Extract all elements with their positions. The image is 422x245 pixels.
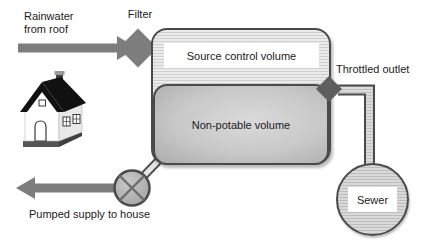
- filter-label: Filter: [118, 8, 162, 21]
- throttled-outlet-label: Throttled outlet: [336, 63, 409, 76]
- throttle-valve-icon: [316, 76, 342, 102]
- house-icon: [20, 71, 86, 147]
- pump-valve-icon: [115, 171, 150, 206]
- rainwater-inflow-label: Rainwater from roof: [24, 10, 74, 36]
- rainwater-system-diagram: Source control volume Non-potable volume…: [0, 0, 422, 245]
- pumped-supply-label: Pumped supply to house: [29, 208, 150, 221]
